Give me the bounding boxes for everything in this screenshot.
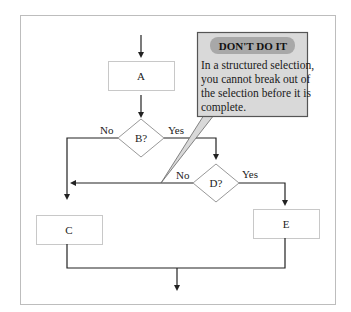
b-yes-label: Yes xyxy=(168,124,184,136)
process-e-label: E xyxy=(283,218,290,230)
callout-heading: DON'T DO IT xyxy=(219,40,288,52)
decision-d-label: D? xyxy=(210,177,223,189)
decision-b-label: B? xyxy=(135,132,147,144)
callout-line-1: In a structured selection, xyxy=(201,59,314,72)
d-no-label: No xyxy=(176,169,190,181)
callout-line-3: the selection before it is xyxy=(201,87,311,99)
flowchart-diagram: A B? No Yes D? No Yes C E DON'T DO IT In… xyxy=(0,0,351,312)
process-a-label: A xyxy=(137,70,145,82)
b-no-label: No xyxy=(100,124,114,136)
process-c-label: C xyxy=(65,224,72,236)
callout-line-4: complete. xyxy=(201,101,246,114)
d-yes-label: Yes xyxy=(242,168,258,180)
callout-line-2: you cannot break out of xyxy=(201,73,310,86)
